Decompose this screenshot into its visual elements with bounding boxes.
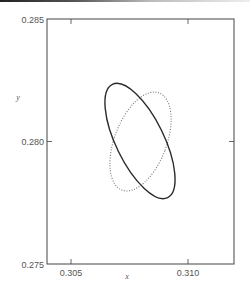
y-tick-label-1: 0.280 — [21, 137, 44, 147]
y-axis-label: y — [15, 93, 20, 102]
x-tick-label-0: 0.305 — [60, 268, 83, 278]
dotted-ellipse-curve — [98, 84, 184, 200]
x-tick-label-1: 0.310 — [177, 268, 200, 278]
chart-plot: 0.305 0.310 0.285 0.280 0.275 x y — [0, 0, 250, 285]
solid-ellipse-curve — [91, 74, 189, 208]
x-axis-label: x — [124, 272, 129, 281]
plot-frame — [47, 19, 234, 264]
y-tick-label-2: 0.275 — [21, 260, 44, 270]
y-tick-label-0: 0.285 — [21, 15, 44, 25]
